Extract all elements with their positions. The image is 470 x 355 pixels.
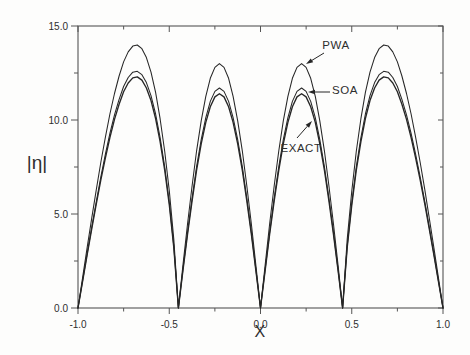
y-tick-label: 10.0 <box>49 115 69 126</box>
x-tick-label: 1.0 <box>436 319 450 330</box>
x-tick-label: 0.5 <box>345 319 359 330</box>
annotation-arrowhead-pwa <box>306 58 313 64</box>
annotation-arrow-shaft-pwa <box>312 53 324 60</box>
y-tick-label: 15.0 <box>49 21 69 32</box>
curve-soa <box>78 71 443 308</box>
x-tick-label: -0.5 <box>161 319 179 330</box>
annotation-arrowhead-soa <box>308 90 315 95</box>
y-axis-title: |η| <box>27 152 47 173</box>
annotation-label-soa: SOA <box>332 84 358 96</box>
y-tick-label: 5.0 <box>54 209 68 220</box>
plot-frame <box>78 26 443 308</box>
x-tick-label: -1.0 <box>69 319 87 330</box>
annotation-arrow-shaft-exact <box>297 126 307 138</box>
line-chart: X |η| -1.0-0.50.00.51.00.05.010.015.0PWA… <box>0 0 470 355</box>
x-tick-label: 0.0 <box>254 319 268 330</box>
annotation-label-exact: EXACT <box>281 142 322 154</box>
curve-pwa <box>78 45 443 308</box>
annotation-label-pwa: PWA <box>322 39 349 51</box>
curve-exact <box>78 77 443 308</box>
y-tick-label: 0.0 <box>54 303 68 314</box>
figure-canvas: X |η| -1.0-0.50.00.51.00.05.010.015.0PWA… <box>0 0 470 355</box>
